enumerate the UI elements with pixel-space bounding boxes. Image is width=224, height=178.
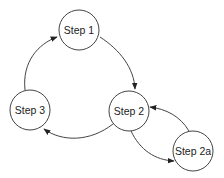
edge-step2a-to-step2: [150, 107, 189, 131]
edge-step2-to-step3: [44, 124, 113, 138]
edge-step3-to-step1: [25, 37, 57, 90]
node-label: Step 2a: [175, 145, 211, 157]
node-step3[interactable]: Step 3: [10, 90, 50, 130]
node-step2[interactable]: Step 2: [109, 91, 149, 131]
node-step1[interactable]: Step 1: [59, 10, 99, 50]
node-label: Step 3: [15, 104, 46, 116]
edge-step1-to-step2: [100, 37, 135, 89]
cycle-diagram: Step 1 Step 2 Step 3 Step 2a: [0, 0, 224, 178]
node-label: Step 2: [114, 105, 145, 117]
node-step2a[interactable]: Step 2a: [173, 131, 213, 171]
node-label: Step 1: [64, 24, 95, 36]
edge-step2-to-step2a: [131, 131, 174, 161]
